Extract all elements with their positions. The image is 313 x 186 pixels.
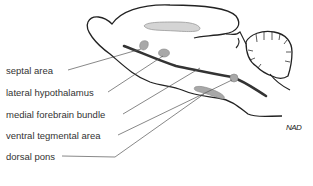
brain-outline bbox=[88, 5, 239, 38]
corpus-callosum-shape bbox=[144, 22, 200, 32]
label-ventral-tegmental-area: ventral tegmental area bbox=[6, 131, 101, 141]
leader-lateral-hypothalamus bbox=[108, 56, 163, 92]
label-dorsal-pons: dorsal pons bbox=[6, 152, 55, 162]
ventral-tegmental-area-region bbox=[230, 74, 238, 82]
artist-signature: NAD bbox=[286, 123, 301, 132]
label-lateral-hypothalamus: lateral hypothalamus bbox=[6, 88, 94, 98]
lateral-hypothalamus-region bbox=[159, 49, 170, 57]
cerebellum-folia bbox=[248, 32, 291, 68]
leader-septal-area bbox=[68, 49, 141, 70]
brainstem-connector bbox=[226, 32, 246, 48]
label-septal-area: septal area bbox=[6, 66, 53, 76]
label-medial-forebrain-bundle: medial forebrain bundle bbox=[6, 110, 105, 120]
septal-area-region bbox=[140, 41, 149, 50]
brain-outline-ventral bbox=[87, 22, 282, 117]
cerebellum-outline bbox=[246, 31, 292, 78]
